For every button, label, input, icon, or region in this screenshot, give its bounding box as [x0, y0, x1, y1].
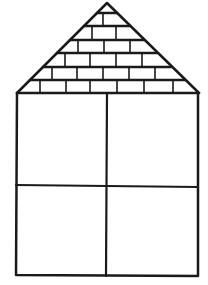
vertical-divider [106, 93, 107, 276]
house-svg [0, 0, 208, 285]
horizontal-divider [16, 185, 198, 187]
roof-brick-rows [17, 13, 199, 93]
house-drawing [0, 0, 208, 285]
